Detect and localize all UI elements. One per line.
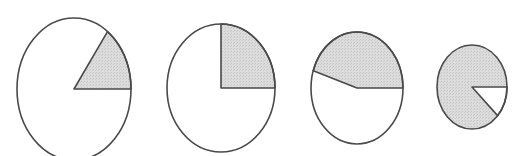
- pie-diagrams: [0, 0, 527, 156]
- pie-2: [167, 24, 275, 152]
- pie-1: [17, 18, 131, 156]
- pie-3: [311, 32, 403, 144]
- pie-4: [437, 45, 507, 129]
- shaded-sector: [221, 24, 275, 88]
- pie-figure-row: [0, 0, 527, 156]
